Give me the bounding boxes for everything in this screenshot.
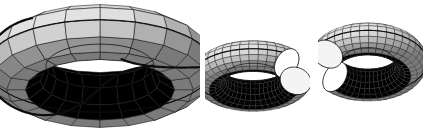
- mesh-quad: [258, 55, 267, 62]
- mesh-quad: [249, 49, 258, 55]
- mesh-quad: [240, 55, 249, 62]
- mesh-quad: [361, 76, 365, 82]
- mesh-quad: [246, 88, 251, 94]
- mesh-quad: [360, 36, 369, 43]
- mesh-quad: [250, 81, 255, 84]
- mesh-quad: [361, 71, 365, 76]
- mesh-quad: [351, 37, 360, 44]
- mesh-quad: [100, 20, 135, 39]
- mesh-quad: [369, 30, 378, 36]
- mesh-quad: [242, 88, 247, 94]
- mesh-quad: [368, 48, 376, 53]
- panel-uncut-torus-with-curve: [0, 0, 200, 137]
- mesh-quad: [249, 110, 257, 112]
- mesh-quad: [369, 72, 373, 77]
- mesh-quad: [250, 84, 255, 89]
- mesh-quad: [249, 55, 258, 61]
- mesh-quad: [363, 99, 371, 101]
- mesh-quad: [249, 41, 258, 44]
- mesh-quad: [249, 44, 258, 49]
- mesh-quad: [361, 48, 369, 53]
- mesh-quad: [259, 88, 264, 94]
- mesh-quad: [369, 76, 373, 82]
- mesh-quad: [82, 74, 100, 88]
- mesh-quad: [246, 84, 251, 89]
- mesh-quad: [377, 37, 386, 44]
- mesh-quad: [249, 106, 256, 110]
- mesh-quad: [374, 76, 378, 83]
- mesh-quad: [255, 88, 260, 94]
- mesh-quad: [65, 20, 100, 39]
- mesh-quad: [231, 55, 241, 62]
- mesh-quad: [100, 87, 118, 105]
- mesh-quad: [250, 70, 257, 72]
- panel-cut-half-torus-back: [318, 16, 423, 116]
- figure-root: [0, 0, 425, 137]
- mesh-quad: [369, 36, 378, 43]
- mesh-quad: [365, 82, 370, 88]
- mesh-quad: [365, 76, 369, 82]
- mesh-quad: [250, 66, 258, 70]
- mesh-quad: [255, 84, 260, 89]
- mesh-quad: [266, 55, 276, 62]
- mesh-quad: [364, 94, 371, 98]
- torus-mesh: [0, 5, 200, 128]
- mesh-quad: [360, 30, 369, 36]
- mesh-quad: [365, 69, 370, 72]
- panel-cut-half-torus-front: [205, 30, 310, 130]
- mesh-quad: [250, 89, 255, 95]
- mesh-quad: [365, 72, 369, 77]
- mesh-quad: [250, 94, 255, 100]
